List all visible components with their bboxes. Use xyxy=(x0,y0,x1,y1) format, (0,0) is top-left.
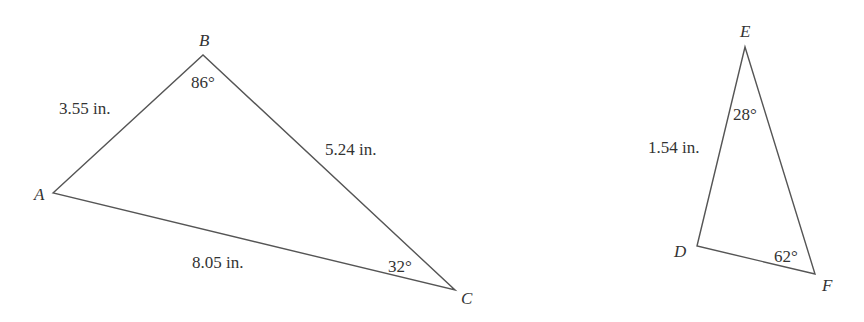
triangle-def-outline xyxy=(697,47,815,274)
triangle-abc: B A C 3.55 in. 5.24 in. 8.05 in. 86° 32° xyxy=(33,31,473,308)
triangle-abc-outline xyxy=(53,55,455,290)
side-label-de: 1.54 in. xyxy=(648,138,699,157)
side-label-ac: 8.05 in. xyxy=(192,253,243,272)
triangle-def: E D F 1.54 in. 28° 62° xyxy=(648,22,833,295)
vertex-label-a: A xyxy=(33,185,45,204)
angle-label-e: 28° xyxy=(733,105,757,124)
diagram-canvas: B A C 3.55 in. 5.24 in. 8.05 in. 86° 32°… xyxy=(0,0,864,322)
vertex-label-b: B xyxy=(199,31,210,50)
side-label-ab: 3.55 in. xyxy=(59,99,110,118)
angle-label-b: 86° xyxy=(191,73,215,92)
vertex-label-e: E xyxy=(739,22,751,41)
side-label-bc: 5.24 in. xyxy=(325,140,376,159)
vertex-label-d: D xyxy=(673,242,687,261)
vertex-label-f: F xyxy=(821,276,833,295)
angle-label-c: 32° xyxy=(388,257,412,276)
vertex-label-c: C xyxy=(461,289,473,308)
angle-label-f: 62° xyxy=(774,247,798,266)
triangles-figure: B A C 3.55 in. 5.24 in. 8.05 in. 86° 32°… xyxy=(0,0,864,322)
